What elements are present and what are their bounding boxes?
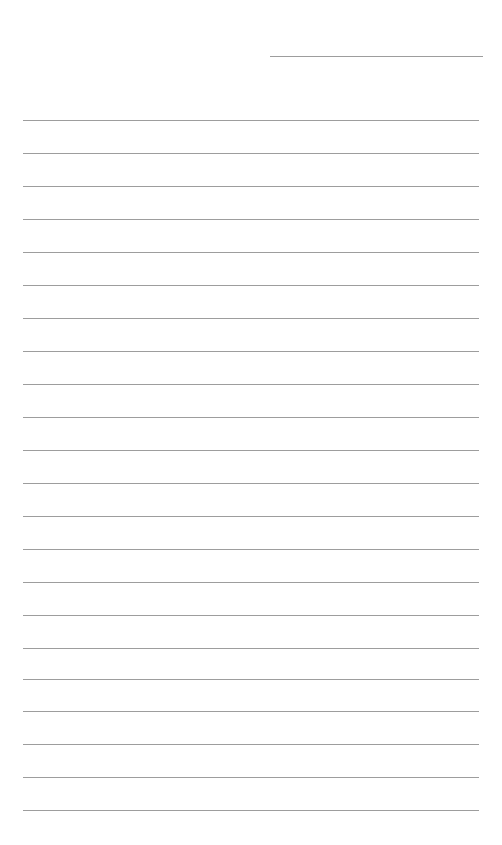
ruled-line	[23, 810, 479, 811]
ruled-line	[23, 483, 479, 484]
ruled-line	[23, 417, 479, 418]
ruled-line	[23, 549, 479, 550]
ruled-line	[23, 615, 479, 616]
ruled-line	[23, 252, 479, 253]
ruled-line	[23, 153, 479, 154]
ruled-line	[23, 711, 479, 712]
ruled-line	[23, 744, 479, 745]
ruled-line	[23, 450, 479, 451]
ruled-line	[23, 777, 479, 778]
ruled-line	[23, 516, 479, 517]
lined-paper-page	[0, 0, 502, 845]
ruled-line	[23, 384, 479, 385]
ruled-line	[23, 186, 479, 187]
ruled-line	[23, 120, 479, 121]
ruled-line	[23, 582, 479, 583]
header-name-line	[270, 56, 483, 57]
ruled-line	[23, 285, 479, 286]
ruled-line	[23, 679, 479, 680]
ruled-line	[23, 648, 479, 649]
ruled-line	[23, 219, 479, 220]
ruled-line	[23, 351, 479, 352]
ruled-line	[23, 318, 479, 319]
